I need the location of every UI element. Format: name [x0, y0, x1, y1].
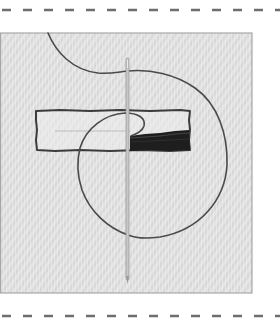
illustration-canvas — [0, 0, 280, 326]
needle-thread-illustration — [0, 0, 280, 326]
needle — [126, 58, 129, 284]
